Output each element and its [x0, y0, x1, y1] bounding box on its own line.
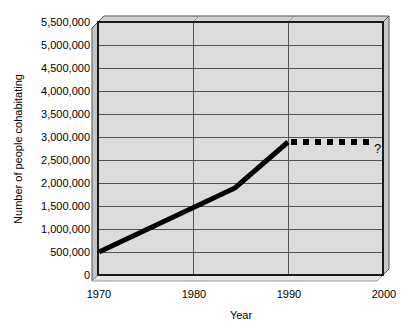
y-axis-tick-labels: 5,500,000 5,000,000 4,500,000 4,000,000 …: [41, 16, 90, 281]
x-axis-tick-labels: 1970 1980 1990 2000: [87, 288, 396, 300]
x-tick-label: 1990: [277, 288, 301, 300]
x-axis-title: Year: [230, 309, 253, 321]
x-tick-label: 1980: [182, 288, 206, 300]
y-tick-label: 3,500,000: [41, 108, 90, 120]
y-tick-label: 500,000: [50, 246, 90, 258]
y-tick-label: 3,000,000: [41, 131, 90, 143]
plot-bottom-lip: [92, 275, 383, 281]
y-axis-title: Number of people cohabitating: [12, 74, 24, 224]
y-tick-label: 1,000,000: [41, 223, 90, 235]
plot-base-lip: [92, 22, 98, 281]
chart-canvas: ? 5,500,000 5,000,000 4,500,000 4,000,00…: [0, 0, 403, 330]
x-tick-label: 2000: [372, 288, 396, 300]
y-tick-label: 1,500.000: [41, 200, 90, 212]
y-tick-label: 5,500,000: [41, 16, 90, 28]
y-tick-label: 0: [84, 269, 90, 281]
plot-area-background: [98, 22, 383, 275]
line-chart-figure: ? 5,500,000 5,000,000 4,500,000 4,000,00…: [0, 0, 403, 330]
y-tick-label: 4,000,000: [41, 85, 90, 97]
y-tick-label: 2,500,000: [41, 154, 90, 166]
y-tick-label: 2,000,000: [41, 177, 90, 189]
projection-question-annotation: ?: [374, 141, 381, 156]
y-tick-label: 5,000,000: [41, 39, 90, 51]
plot-right-face: [383, 16, 389, 275]
plot-top-face: [98, 16, 389, 22]
x-tick-label: 1970: [87, 288, 111, 300]
y-tick-label: 4,500,000: [41, 62, 90, 74]
